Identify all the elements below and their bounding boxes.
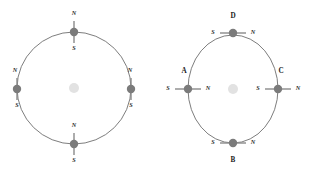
magnet-right-pole-N: N xyxy=(127,66,133,73)
magnet-top: NS xyxy=(70,9,78,51)
magnet-right-pole-S: S xyxy=(129,101,133,108)
magnet-b-pole-N: N xyxy=(250,138,256,145)
magnet-d-name-label: D xyxy=(230,12,235,20)
magnet-bottom-pole-S: S xyxy=(72,156,76,163)
magnet-d-pole-N: N xyxy=(250,28,256,35)
magnet-left-pole-S: S xyxy=(15,101,19,108)
magnet-c-pole-N: N xyxy=(295,84,301,91)
magnet-bottom-pole-N: N xyxy=(71,121,77,128)
magnet-b: SNB xyxy=(211,138,255,163)
magnet-d: SND xyxy=(211,12,255,38)
magnet-top-pole-S: S xyxy=(72,44,76,51)
radial-magnet-ring: NSNSNSNS xyxy=(12,9,135,163)
magnet-right: NS xyxy=(127,66,135,108)
magnet-bottom: NS xyxy=(70,121,78,163)
magnet-a-pole-S: S xyxy=(166,84,170,91)
magnet-right-pivot xyxy=(127,85,135,93)
magnet-left-pivot xyxy=(13,85,21,93)
magnet-top-pivot xyxy=(70,28,78,36)
tangential-magnet-ring: SNDSNASNCSNB xyxy=(166,12,300,164)
magnet-a-pivot xyxy=(184,85,192,93)
ring-center-hub xyxy=(228,84,238,94)
magnet-c-name-label: C xyxy=(278,67,283,75)
diagram-canvas: NSNSNSNSSNDSNASNCSNB xyxy=(0,0,311,175)
magnet-d-pole-S: S xyxy=(211,28,215,35)
magnet-top-pole-N: N xyxy=(71,9,77,16)
diagram-svg: NSNSNSNSSNDSNASNCSNB xyxy=(0,0,311,175)
magnet-a-pole-N: N xyxy=(205,84,211,91)
magnet-bottom-pivot xyxy=(70,140,78,148)
magnet-c: SNC xyxy=(256,67,300,94)
magnet-b-pivot xyxy=(229,139,237,147)
magnet-left: NS xyxy=(12,66,21,108)
magnet-d-pivot xyxy=(229,29,237,37)
magnet-a-name-label: A xyxy=(181,67,187,75)
ring-center-hub xyxy=(69,83,79,93)
magnet-b-pole-S: S xyxy=(211,138,215,145)
magnet-c-pole-S: S xyxy=(256,84,260,91)
magnet-left-pole-N: N xyxy=(12,66,18,73)
magnet-ring-figure: NSNSNSNSSNDSNASNCSNB xyxy=(0,0,311,175)
magnet-b-name-label: B xyxy=(231,156,236,164)
magnet-c-pivot xyxy=(274,85,282,93)
